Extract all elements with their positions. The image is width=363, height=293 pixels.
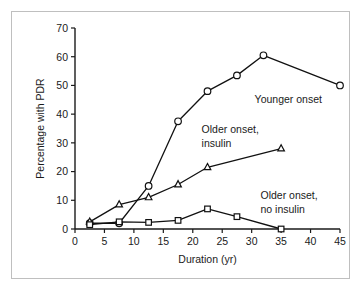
x-axis-tick-label: 20 [187, 235, 199, 247]
x-axis-tick-label: 40 [305, 235, 317, 247]
y-axis-tick-label: 50 [56, 79, 68, 91]
data-point-circle-marker [145, 183, 152, 190]
data-point-triangle-marker [145, 194, 152, 200]
x-axis-title: Duration (yr) [178, 253, 236, 265]
series-annotation-label: Younger onset [255, 93, 322, 105]
x-axis-tick-label: 45 [334, 235, 346, 247]
y-axis-tick-label: 10 [56, 194, 68, 206]
data-point-square-marker [175, 218, 181, 224]
x-axis-tick-label: 30 [246, 235, 258, 247]
data-point-square-marker [234, 214, 240, 220]
series-annotation-label: Older onset, [202, 123, 259, 135]
data-point-circle-marker [234, 72, 241, 79]
data-point-square-marker [146, 220, 152, 226]
data-point-triangle-marker [175, 181, 182, 187]
series-annotation-label: insulin [202, 137, 232, 149]
y-axis-tick-label: 70 [56, 22, 68, 34]
y-axis-tick-label: 20 [56, 165, 68, 177]
data-point-triangle-marker [116, 201, 123, 207]
data-point-circle-marker [204, 88, 211, 95]
data-point-circle-marker [260, 52, 267, 59]
line-chart: 010203040506070051015202530354045Duratio… [12, 12, 349, 278]
data-point-triangle-marker [204, 163, 211, 169]
data-point-square-marker [116, 219, 122, 225]
data-point-square-marker [278, 226, 284, 232]
x-axis-tick-label: 15 [157, 235, 169, 247]
y-axis-tick-label: 30 [56, 137, 68, 149]
x-axis-tick-label: 35 [275, 235, 287, 247]
data-point-triangle-marker [278, 145, 285, 151]
y-axis-title: Percentage with PDR [34, 78, 46, 179]
x-axis-tick-label: 25 [216, 235, 228, 247]
data-point-circle-marker [337, 82, 344, 89]
y-axis-tick-label: 0 [62, 223, 68, 235]
figure-frame: 010203040506070051015202530354045Duratio… [11, 11, 350, 279]
y-axis-tick-label: 60 [56, 51, 68, 63]
data-point-circle-marker [175, 118, 182, 125]
series-triangle [86, 145, 284, 224]
series-line [90, 149, 281, 222]
series-square [87, 206, 284, 232]
data-point-square-marker [87, 222, 93, 228]
series-annotation-label: Older onset, [261, 189, 318, 201]
y-axis-tick-label: 40 [56, 108, 68, 120]
series-annotation-label: no insulin [261, 203, 306, 215]
x-axis-tick-label: 10 [128, 235, 140, 247]
x-axis-tick-label: 5 [102, 235, 108, 247]
x-axis-tick-label: 0 [72, 235, 78, 247]
data-point-square-marker [205, 206, 211, 212]
